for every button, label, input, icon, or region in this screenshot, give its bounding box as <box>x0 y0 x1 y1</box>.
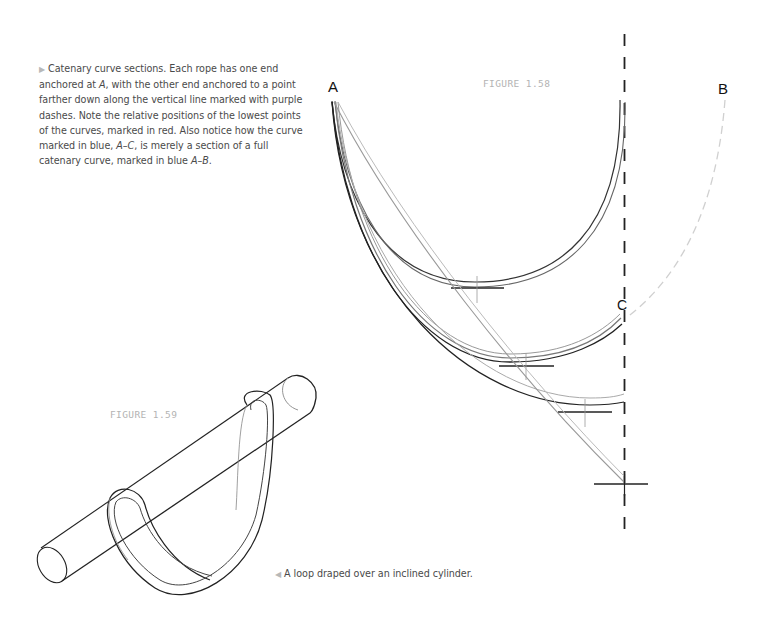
figure-159-caption: ◀A loop draped over an inclined cylinder… <box>275 566 535 582</box>
caption-text: A loop draped over an inclined cylinder. <box>284 568 473 579</box>
catenary-curve-4 <box>334 102 624 482</box>
point-label-c: C <box>617 297 627 313</box>
full-catenary-curve-dashed <box>626 100 725 318</box>
draped-loop <box>107 391 273 595</box>
point-label-b: B <box>718 80 728 97</box>
catenary-and-loop-drawing <box>0 0 767 619</box>
anchor-marker-bottom <box>594 474 648 496</box>
lowest-point-marker-1 <box>451 276 504 303</box>
point-label-a: A <box>328 78 338 95</box>
catenary-curve-1 <box>332 100 625 287</box>
left-triangle-icon: ◀ <box>275 570 281 579</box>
